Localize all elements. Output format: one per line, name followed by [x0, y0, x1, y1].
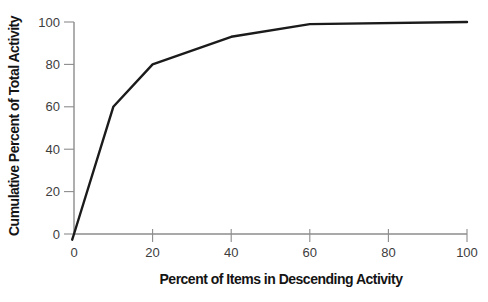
y-tick-label-20: 20: [46, 184, 60, 199]
y-tick-label-60: 60: [46, 99, 60, 114]
tick-marks: [64, 22, 467, 242]
x-axis-title: Percent of Items in Descending Activity: [160, 271, 404, 287]
pareto-chart-canvas: 020406080100020406080100 Percent of Item…: [0, 0, 488, 302]
x-tick-label-20: 20: [145, 245, 159, 260]
axes: [74, 22, 467, 234]
x-tick-label-80: 80: [381, 245, 395, 260]
y-tick-label-40: 40: [46, 142, 60, 157]
y-tick-label-80: 80: [46, 57, 60, 72]
y-tick-label-0: 0: [53, 227, 60, 242]
x-tick-label-0: 0: [70, 245, 77, 260]
x-tick-label-100: 100: [456, 245, 478, 260]
y-axis-title: Cumulative Percent of Total Activity: [6, 15, 22, 236]
x-tick-label-60: 60: [303, 245, 317, 260]
pareto-analysis-figure: 020406080100020406080100 Percent of Item…: [0, 0, 488, 302]
cumulative-activity-curve: [72, 22, 467, 240]
x-tick-label-40: 40: [224, 245, 238, 260]
y-tick-label-100: 100: [38, 15, 60, 30]
